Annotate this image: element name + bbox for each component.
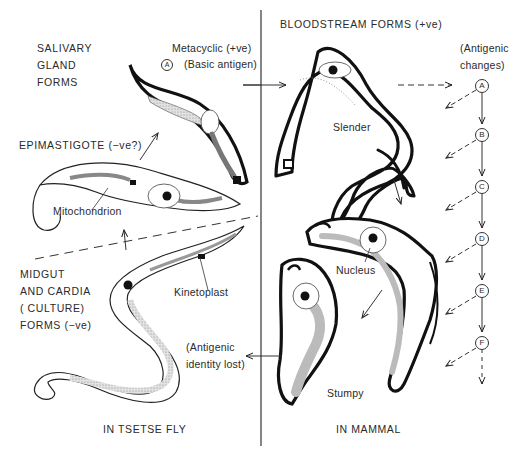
midgut-line-2: AND CARDIA [20,283,92,300]
metacyclic-trypanosome [130,65,247,184]
salivary-gland-forms-label: SALIVARY GLAND FORMS [37,40,92,91]
antigen-b-circle: B [475,128,489,142]
antigen-d-circle: D [475,232,489,246]
antigen-e-circle: E [475,284,489,298]
metacyclic-antigen-a-circle: A [161,59,173,71]
salivary-line-3: FORMS [37,74,92,91]
stumpy-trypanosome [279,259,337,404]
antigenic-identity-lost-label: (Antigenic identity lost) [186,339,245,373]
antigenic-changes-label: (Antigenic changes) [460,40,509,74]
stumpy-label: Stumpy [327,385,364,402]
bloodstream-forms-label: BLOODSTREAM FORMS (+ve) [280,16,442,33]
basic-antigen-label: (Basic antigen) [184,56,257,73]
antigenic-changes-line-2: changes) [460,57,509,74]
in-tsetse-fly-label: IN TSETSE FLY [103,421,186,438]
midgut-line-1: MIDGUT [20,266,92,283]
midgut-forms-label: MIDGUT AND CARDIA ( CULTURE) FORMS (−ve) [20,266,92,334]
mitochondrion-label: Mitochondrion [53,203,122,220]
salivary-line-1: SALIVARY [37,40,92,57]
kinetoplast-label: Kinetoplast [174,284,228,301]
salivary-line-2: GLAND [37,57,92,74]
antigenic-lost-line-2: identity lost) [186,356,245,373]
in-mammal-label: IN MAMMAL [336,421,401,438]
antigenic-changes-line-1: (Antigenic [460,40,509,57]
epimastigote-label: EPIMASTIGOTE (−ve?) [19,137,142,154]
antigen-f-circle: F [475,336,489,350]
midgut-line-4: FORMS (−ve) [20,317,92,334]
antigenic-lost-line-1: (Antigenic [186,339,245,356]
midgut-line-3: ( CULTURE) [20,300,92,317]
epimastigote-trypanosome [33,163,240,230]
metacyclic-label: Metacyclic (+ve) [172,40,251,57]
antigen-a-circle: A [475,79,489,93]
nucleus-label: Nucleus [336,262,375,279]
antigen-c-circle: C [475,180,489,194]
slender-label: Slender [333,119,371,136]
slender-trypanosome [276,48,414,237]
